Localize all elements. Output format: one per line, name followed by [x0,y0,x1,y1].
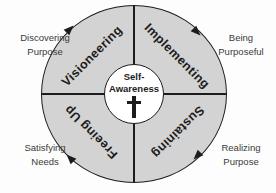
center-label-line1: Self- [105,71,163,83]
outer-label-line1: Discovering [2,31,88,45]
outer-label-line1: Being [208,31,274,45]
outer-label-line2: Needs [2,155,88,169]
outer-label-line2: Purpose [2,45,88,59]
outer-label-discovering-purpose: Discovering Purpose [2,31,88,58]
center-label-line2: Awareness [105,83,163,95]
center-label: Self- Awareness [105,71,163,94]
outer-label-line1: Satisfying [2,141,88,155]
outer-label-line2: Purposeful [208,45,274,59]
outer-label-line1: Realizing [208,141,274,155]
outer-label-being-purposeful: Being Purposeful [208,31,274,58]
outer-label-satisfying-needs: Satisfying Needs [2,141,88,168]
self-awareness-circle: Self- Awareness [104,64,164,124]
cycle-diagram: Visioneering Implementing Sustaining Fre… [0,0,276,193]
outer-label-line2: Purpose [208,155,274,169]
outer-label-realizing-purpose: Realizing Purpose [208,141,274,168]
